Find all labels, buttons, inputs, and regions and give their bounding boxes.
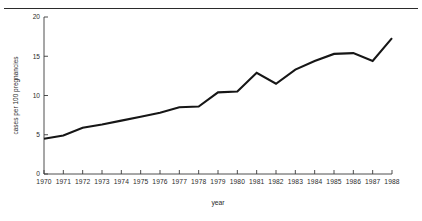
x-tick-label: 1980 xyxy=(230,178,245,185)
x-tick-label: 1972 xyxy=(75,178,90,185)
x-tick-label: 1981 xyxy=(249,178,264,185)
y-axis-ticks xyxy=(44,17,48,174)
line-chart-svg: 20 15 10 5 0 cases per 100 pregnancies xyxy=(0,0,422,221)
y-tick-label: 15 xyxy=(33,53,41,60)
plot-area: 20 15 10 5 0 cases per 100 pregnancies xyxy=(0,0,422,221)
x-tick-label: 1974 xyxy=(114,178,129,185)
x-axis-tick-labels: 1970 1971 1972 1973 1974 1975 1976 1977 … xyxy=(36,178,399,185)
x-tick-label: 1973 xyxy=(94,178,109,185)
x-tick-label: 1987 xyxy=(365,178,380,185)
x-tick-label: 1978 xyxy=(191,178,206,185)
x-tick-label: 1977 xyxy=(172,178,187,185)
y-tick-label: 10 xyxy=(33,92,41,99)
x-tick-label: 1976 xyxy=(152,178,167,185)
x-tick-label: 1979 xyxy=(210,178,225,185)
x-tick-label: 1983 xyxy=(288,178,303,185)
y-tick-label: 5 xyxy=(36,131,40,138)
y-tick-label: 20 xyxy=(33,13,41,20)
y-axis-tick-labels: 20 15 10 5 0 xyxy=(33,13,41,177)
x-axis-ticks xyxy=(44,170,392,174)
data-series-line xyxy=(44,38,392,138)
x-tick-label: 1982 xyxy=(268,178,283,185)
y-tick-label: 0 xyxy=(36,170,40,177)
x-tick-label: 1971 xyxy=(56,178,71,185)
x-tick-label: 1975 xyxy=(133,178,148,185)
x-tick-label: 1988 xyxy=(384,178,399,185)
x-tick-label: 1986 xyxy=(346,178,361,185)
y-axis-title: cases per 100 pregnancies xyxy=(12,56,20,135)
chart-figure: 20 15 10 5 0 cases per 100 pregnancies xyxy=(0,0,422,221)
x-tick-label: 1970 xyxy=(36,178,51,185)
x-tick-label: 1984 xyxy=(307,178,322,185)
x-tick-label: 1985 xyxy=(326,178,341,185)
x-axis-title: year xyxy=(211,199,225,207)
